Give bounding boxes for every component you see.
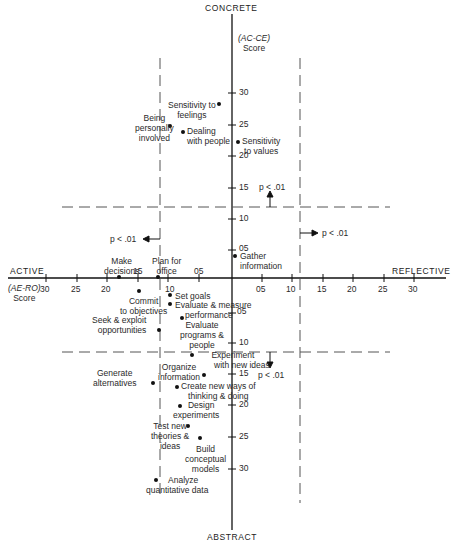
label-build-conceptual-models: Buildconceptualmodels <box>185 444 226 474</box>
y-tick: 30 <box>239 463 248 473</box>
label-commit-to-objectives: Committo objectives <box>120 296 167 316</box>
x-tick: 30 <box>408 284 417 294</box>
label-create-new-ways: Create new ways ofthinking & doing <box>181 381 256 401</box>
point-experiment-with-new-ideas <box>190 353 194 357</box>
label-plan-for-office: Plan foroffice <box>152 256 181 276</box>
point-seek-exploit-opportunities <box>157 328 161 332</box>
x-tick: 10 <box>286 284 295 294</box>
significance-top: p < .01 <box>259 182 285 192</box>
point-dealing-with-people <box>181 130 185 134</box>
label-evaluate-measure-performance: Evaluate & measureperformance <box>175 300 252 320</box>
pole-active: ACTIVE <box>10 266 44 276</box>
label-test-new-theories: Test newtheories &ideas <box>151 421 189 451</box>
label-being-personally-involved: Beingpersonallyinvolved <box>135 113 174 143</box>
label-organize-information: Organizeinformation <box>158 362 200 382</box>
point-create-new-ways <box>175 385 179 389</box>
y-tick: 10 <box>239 337 248 347</box>
point-sensitivity-to-feelings <box>217 102 221 106</box>
y-tick: 10 <box>239 213 248 223</box>
point-generate-alternatives <box>151 381 155 385</box>
x-tick: 15 <box>317 284 326 294</box>
x-tick: 20 <box>347 284 356 294</box>
x-tick: 25 <box>71 284 80 294</box>
label-dealing-with-people: Dealingwith people <box>187 126 230 146</box>
label-seek-exploit-opportunities: Seek & exploitopportunities <box>92 315 146 335</box>
label-design-experiments: Designexperiments <box>173 400 219 420</box>
x-tick: 20 <box>101 284 110 294</box>
point-set-goals <box>168 293 172 297</box>
label-sensitivity-to-feelings: Sensitivity tofeelings <box>168 100 216 120</box>
x-tick: 05 <box>194 266 203 276</box>
label-experiment-with-new-ideas: Experimentwith new ideas <box>196 350 270 370</box>
label-generate-alternatives: Generatealternatives <box>93 368 136 388</box>
point-organize-information <box>202 373 206 377</box>
label-sensitivity-to-values: Sensitivityto values <box>242 136 280 156</box>
label-analyze-quantitative-data: Analyzequantitative data <box>146 475 208 495</box>
y-tick: 30 <box>239 87 248 97</box>
point-gather-information <box>233 254 237 258</box>
y-tick: 25 <box>239 119 248 129</box>
significance-bottom: p < .01 <box>258 370 284 380</box>
significance-right: p < .01 <box>322 228 348 238</box>
point-commit-to-objectives <box>137 289 141 293</box>
pole-reflective: REFLECTIVE <box>392 266 450 276</box>
y-tick: 25 <box>239 431 248 441</box>
pole-concrete: CONCRETE <box>205 3 258 13</box>
x-tick: 30 <box>40 284 49 294</box>
x-tick: 25 <box>378 284 387 294</box>
label-gather-information: Gatherinformation <box>240 251 282 271</box>
significance-left: p < .01 <box>110 234 136 244</box>
pole-abstract: ABSTRACT <box>207 532 257 542</box>
horizontal-axis-title: (AE-RO) Score <box>8 283 41 303</box>
label-make-decisions: Makedecisions <box>104 256 139 276</box>
x-tick: 05 <box>256 284 265 294</box>
label-evaluate-programs-people: Evaluateprograms &people <box>180 320 224 350</box>
axes-and-thresholds <box>0 0 453 545</box>
vertical-axis-title: (AC-CE) Score <box>238 33 270 53</box>
point-build-conceptual-models <box>198 436 202 440</box>
point-evaluate-measure-performance <box>168 302 172 306</box>
point-sensitivity-to-values <box>236 140 240 144</box>
y-tick: 15 <box>239 182 248 192</box>
